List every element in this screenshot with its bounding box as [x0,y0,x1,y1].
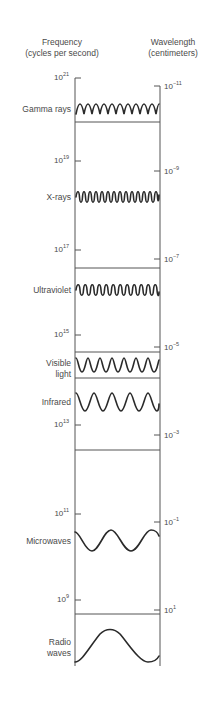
gamma-rays-wave [76,104,159,114]
infrared-wave [76,393,159,411]
x-rays-wave [76,192,159,203]
microwaves-wave [75,530,159,551]
visible-light-wave [76,358,159,372]
spectrum-diagram [0,0,209,706]
radio-waves-wave [75,630,159,663]
ultraviolet-wave [76,285,159,296]
